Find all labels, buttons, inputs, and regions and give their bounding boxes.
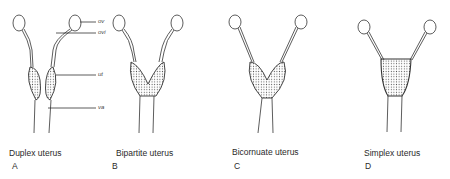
figure-letter-b: B: [112, 161, 118, 171]
label-uterus: ut: [98, 71, 103, 77]
caption-bicornuate: Bicornuate uterus: [232, 147, 299, 157]
bipartite-uterus-drawing: [113, 15, 183, 133]
figure-letter-d: D: [365, 161, 371, 171]
figure-letter-c: C: [234, 161, 240, 171]
figure-letter-a: A: [12, 161, 18, 171]
simplex-uterus-drawing: [358, 20, 436, 132]
caption-bipartite: Bipartite uterus: [116, 148, 173, 158]
bicornuate-uterus-drawing: [229, 15, 307, 133]
label-oviduct: ovi: [98, 29, 106, 35]
duplex-uterus-drawing: [13, 15, 96, 133]
caption-duplex: Duplex uterus: [9, 148, 61, 158]
caption-simplex: Simplex uterus: [364, 148, 420, 158]
label-vagina: va: [98, 104, 104, 110]
label-ovary: ov: [98, 18, 104, 24]
